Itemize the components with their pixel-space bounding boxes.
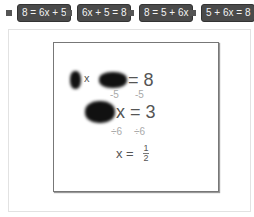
answer-options: 8 = 6x + 5 6x + 5 = 8 8 = 5 + 6x 5 + 6x … — [0, 4, 254, 24]
option-chip[interactable]: 8 = 5 + 6x — [139, 4, 193, 22]
radio-icon[interactable] — [128, 10, 134, 16]
equation-image: x = 8 -5 -5 x = 3 ÷6 ÷6 x = 1 2 — [53, 42, 219, 192]
var-x: x — [84, 72, 90, 84]
radio-icon[interactable] — [6, 10, 12, 16]
option-chip[interactable]: 6x + 5 = 8 — [77, 4, 131, 22]
radio-icon[interactable] — [66, 10, 72, 16]
step1-right: -5 — [135, 89, 144, 100]
option-4[interactable]: 5 + 6x = 8 — [190, 4, 254, 22]
option-1[interactable]: 8 = 6x + 5 — [6, 4, 71, 22]
line2-eq: x = 3 — [116, 102, 156, 123]
fraction: 1 2 — [143, 144, 149, 163]
numerator: 1 — [143, 144, 148, 153]
option-chip[interactable]: 8 = 6x + 5 — [17, 4, 71, 22]
option-3[interactable]: 8 = 5 + 6x — [128, 4, 193, 22]
ink-blot — [99, 72, 127, 88]
denominator: 2 — [143, 154, 148, 163]
option-chip[interactable]: 5 + 6x = 8 — [201, 4, 254, 22]
line1-eq: = 8 — [128, 70, 154, 91]
step2-left: ÷6 — [111, 126, 122, 137]
radio-icon[interactable] — [190, 10, 196, 16]
ink-blot — [70, 71, 81, 89]
step2-right: ÷6 — [134, 126, 145, 137]
step1-left: -5 — [110, 89, 119, 100]
line3-lhs: x = — [116, 146, 134, 161]
option-2[interactable]: 6x + 5 = 8 — [66, 4, 131, 22]
ink-blot — [85, 101, 115, 123]
